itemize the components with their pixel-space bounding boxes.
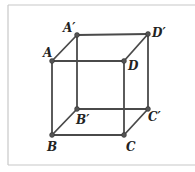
vertex-label-d: D — [127, 59, 139, 73]
vertex-label-c: C — [126, 140, 136, 154]
vertex-point-b — [50, 133, 55, 138]
frame — [8, 5, 195, 165]
vertex-point-d — [122, 59, 127, 64]
vertex-label-a1: A′ — [62, 21, 76, 35]
cube-edges — [52, 34, 148, 135]
vertex-label-b1: B′ — [75, 113, 90, 127]
vertex-point-c — [122, 133, 127, 138]
edge-d-d1 — [124, 34, 148, 61]
vertex-label-c1: C′ — [148, 110, 162, 124]
vertex-label-d1: D′ — [151, 26, 166, 40]
edge-c-c1 — [124, 109, 148, 135]
vertex-label-a: A — [42, 46, 52, 60]
vertex-point-b1 — [75, 107, 80, 112]
cube-diagram: ADA′D′BCB′C′ — [0, 0, 195, 172]
edge-a-a1 — [52, 35, 77, 61]
vertex-label-b: B — [46, 140, 57, 154]
vertex-point-d1 — [146, 32, 151, 37]
edge-b-b1 — [52, 109, 77, 135]
edge-a1-d1 — [77, 34, 148, 35]
